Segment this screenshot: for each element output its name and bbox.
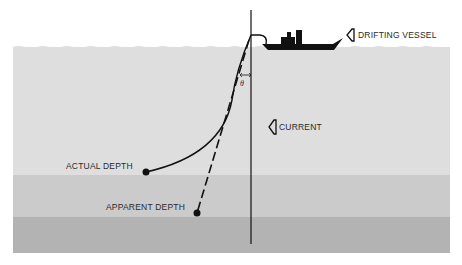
angle-theta-label: θ [240,79,244,88]
actual-depth-label: ACTUAL DEPTH [66,161,133,171]
depth-diagram: DRIFTING VESSEL CURRENT ACTUAL DEPTH APP… [0,0,462,265]
sounding-davit [251,35,266,44]
apparent-depth-weight [194,210,201,217]
ship-icon [262,30,343,50]
drifting-vessel-label: DRIFTING VESSEL [358,30,437,40]
current-label: CURRENT [279,122,322,132]
arrow-left-outline-icon [347,29,354,41]
water-layer-top [13,47,450,175]
water-layer-bottom [13,217,450,253]
water-layer-middle [13,175,450,217]
apparent-depth-label: APPARENT DEPTH [106,202,185,212]
actual-depth-weight [143,169,150,176]
water-surface [13,46,450,50]
